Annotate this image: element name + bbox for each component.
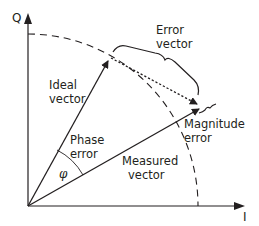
magnitude-error-brace	[199, 104, 216, 113]
error-vector-brace	[113, 46, 199, 95]
ideal-vector-label-line2: vector	[49, 93, 85, 106]
phase-error-label-line1: Phase	[70, 134, 104, 147]
i-axis	[28, 202, 245, 210]
magnitude-error-label-line1: Magnitude	[184, 118, 245, 131]
iq-error-vector-diagram	[0, 0, 259, 226]
error-vector-arrow	[111, 58, 197, 104]
phase-angle-symbol: φ	[59, 168, 67, 181]
q-axis	[24, 13, 32, 206]
i-axis-label: I	[243, 211, 247, 224]
i-axis-arrow-icon	[234, 202, 245, 210]
q-axis-arrow-icon	[24, 13, 32, 24]
error-vector-label-line1: Error	[156, 24, 184, 37]
q-axis-label: Q	[12, 12, 21, 25]
ideal-vector-label-line1: Ideal	[49, 79, 77, 92]
magnitude-error-label-line2: error	[184, 132, 212, 145]
measured-vector-label-line2: vector	[128, 169, 164, 182]
measured-vector-label-line1: Measured	[122, 155, 178, 168]
error-vector-label-line2: vector	[156, 38, 192, 51]
phase-error-label-line2: error	[70, 148, 98, 161]
